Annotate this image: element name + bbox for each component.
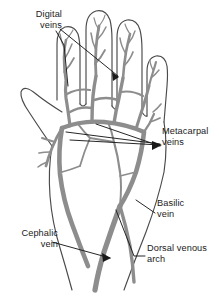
label-dorsal-venous-arch-line1: Dorsal venous — [147, 243, 219, 254]
label-digital-veins-line1: Digital — [6, 9, 62, 20]
metacarpal-vein-1 — [66, 82, 71, 126]
leader-basilic — [136, 200, 155, 213]
digital-vein-ring-b2 — [120, 38, 126, 54]
metacarpal-connector-3 — [121, 92, 143, 97]
digital-vein-little-b2 — [150, 60, 153, 70]
hand-veins-anatomy-figure: Digital veins Metacarpal veins Basilic v… — [0, 0, 219, 304]
arch-crosslink-4 — [114, 142, 120, 172]
little-finger-outline — [147, 56, 168, 122]
metacarpal-connector-1 — [70, 108, 92, 113]
arrowhead-metacarpal — [152, 141, 162, 150]
label-cephalic-vein-line2: vein — [2, 239, 58, 250]
wrist-trunk — [95, 206, 120, 290]
arch-crosslink-7 — [120, 172, 121, 206]
label-basilic-vein-line2: vein — [157, 209, 213, 220]
arch-crosslink-6 — [62, 166, 80, 172]
label-basilic-vein-line1: Basilic — [157, 198, 213, 209]
digital-vein-ring-main — [123, 34, 130, 78]
label-cephalic-vein: Cephalic vein — [2, 228, 58, 250]
label-digital-veins-line2: veins — [6, 20, 62, 31]
metacarpal-connector-2 — [94, 98, 118, 100]
digital-vein-middle-b5 — [99, 15, 105, 26]
arrowhead-cephalic — [102, 253, 111, 262]
thumb-vein-b2 — [39, 152, 50, 153]
arch-crosslink-1 — [78, 124, 90, 138]
wrist-trunk-branch — [120, 206, 134, 282]
finger-web-1 — [80, 104, 86, 106]
arrowhead-digital — [112, 72, 119, 81]
label-metacarpal-veins-line1: Metacarpal — [162, 126, 218, 137]
arch-crosslink-5 — [80, 138, 90, 166]
digital-vein-ring-b4 — [125, 24, 130, 34]
finger-web-3 — [142, 112, 147, 116]
label-cephalic-vein-line1: Cephalic — [2, 228, 58, 239]
label-basilic-vein: Basilic vein — [157, 198, 213, 220]
ulnar-tributary-1 — [144, 114, 154, 132]
ulnar-tributary-3 — [153, 104, 161, 112]
label-metacarpal-veins: Metacarpal veins — [162, 126, 218, 148]
label-dorsal-venous-arch: Dorsal venous arch — [147, 243, 219, 265]
digital-vein-middle-main — [96, 26, 100, 76]
label-dorsal-venous-arch-line2: arch — [147, 254, 219, 265]
digital-vein-middle-b4 — [94, 18, 99, 30]
label-metacarpal-veins-line2: veins — [162, 137, 218, 148]
label-digital-veins: Digital veins — [6, 9, 62, 31]
